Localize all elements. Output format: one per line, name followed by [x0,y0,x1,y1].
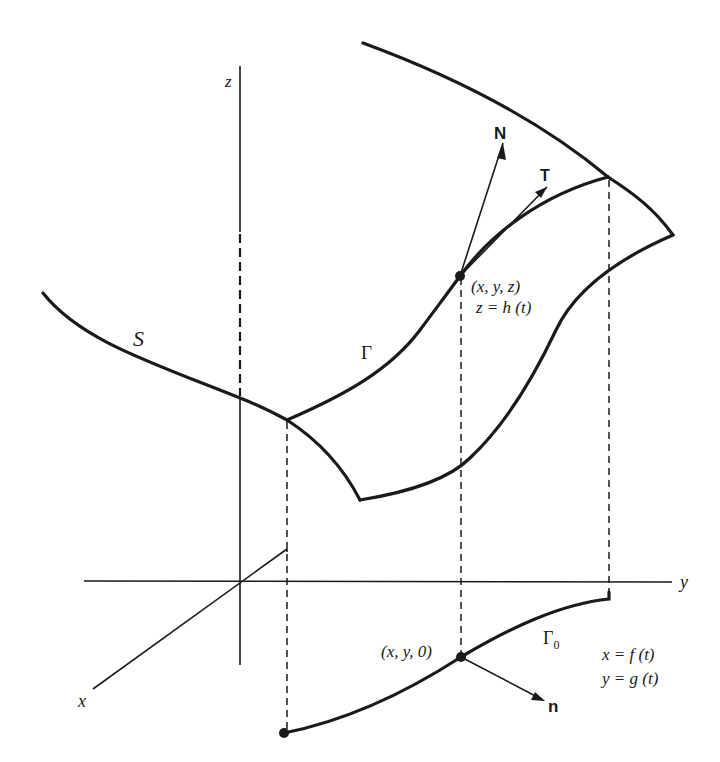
point-3d-param-label: z = h (t) [475,298,532,317]
surface-s-top-edge [363,43,608,177]
projection-lines [287,180,609,731]
normal-vector-N [460,143,506,276]
surface-s-lower-left-edge [287,420,360,500]
surface-label: S [133,326,144,351]
point-start-marker [279,728,289,738]
plane-normal-shaft [461,657,543,700]
z-axis-label: z [224,72,232,91]
projected-curve-label: Γ0 [543,628,559,652]
surface-curve-diagram: z y x S Γ N T n (x, y, z) z = h (t) (x, … [0,0,720,762]
curve-label: Γ [361,342,372,363]
normal-vector-shaft [460,143,503,276]
surface-s-right-edge [608,177,673,235]
projected-curve-label-subscript: 0 [553,638,559,652]
plane-normal-n [461,657,545,701]
plane-normal-label: n [548,697,558,716]
point-3d-label: (x, y, z) [471,277,520,296]
tangent-vector-T [460,187,547,276]
y-axis [84,581,672,582]
surface-s [43,43,673,500]
normal-vector-label: N [494,124,506,143]
surface-s-left-edge [43,293,287,420]
point-2d-label: (x, y, 0) [381,642,432,661]
projected-curve-label-main: Γ [543,628,553,648]
curve-gamma-0 [284,592,609,733]
param-y-label: y = g (t) [600,669,659,688]
param-x-label: x = f (t) [601,645,655,664]
y-axis-label: y [678,572,688,592]
x-axis [93,549,287,689]
curve-gamma [287,177,608,420]
x-axis-label: x [77,691,86,711]
tangent-vector-label: T [540,167,550,184]
surface-s-bottom-edge [360,235,673,500]
tangent-vector-shaft [460,187,547,276]
arrowhead-icon [531,692,545,701]
